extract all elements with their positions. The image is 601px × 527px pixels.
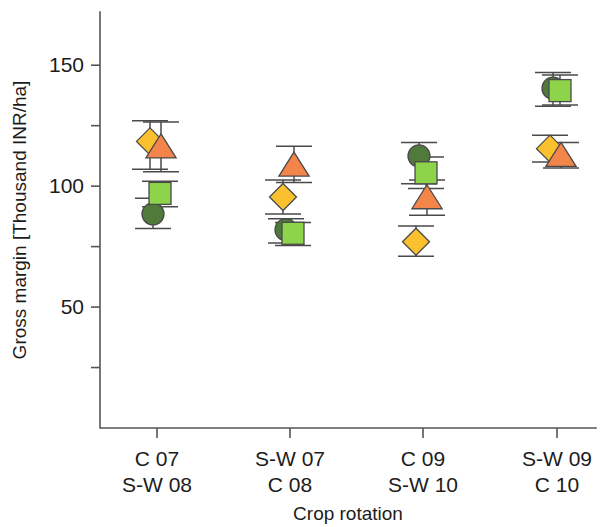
x-axis-tick-label: S-W 10 (388, 473, 458, 496)
data-point-light-green-square (149, 182, 171, 204)
y-axis-title: Gross margin [Thousand INR/ha] (9, 81, 30, 360)
y-axis-tick-label: 100 (49, 174, 84, 197)
data-point-light-green-square (549, 80, 571, 102)
data-point-orange-triangle (279, 152, 309, 176)
gross-margin-scatter-chart: 50100150C 07S-W 08S-W 07C 08C 09S-W 10S-… (0, 0, 601, 527)
data-point-dark-green-circle (142, 203, 164, 225)
data-point-light-green-square (282, 222, 304, 244)
x-axis-tick-label: S-W 09 (522, 447, 592, 470)
data-point-yellow-diamond (403, 228, 430, 255)
x-axis-tick-label: C 08 (268, 473, 312, 496)
data-point-yellow-diamond (270, 184, 297, 211)
y-axis-tick-label: 150 (49, 53, 84, 76)
y-axis-tick-label: 50 (61, 295, 84, 318)
x-axis-tick-label: S-W 08 (122, 473, 192, 496)
x-axis-tick-label: C 09 (401, 447, 445, 470)
x-axis-tick-label: C 07 (135, 447, 179, 470)
axis-frame (100, 12, 596, 428)
x-axis-tick-label: S-W 07 (255, 447, 325, 470)
x-axis-tick-label: C 10 (535, 473, 579, 496)
data-point-light-green-square (415, 162, 437, 184)
chart-figure: 50100150C 07S-W 08S-W 07C 08C 09S-W 10S-… (0, 0, 601, 527)
x-axis-title: Crop rotation (293, 503, 403, 524)
